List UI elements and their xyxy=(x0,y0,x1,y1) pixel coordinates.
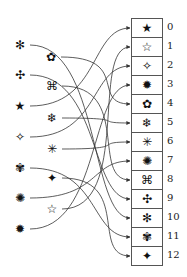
mapping-arrow xyxy=(62,47,130,209)
outline-four-point-star-icon: ✧ xyxy=(142,59,152,73)
mapping-arrow xyxy=(62,142,130,149)
slot-index-label: 11 xyxy=(167,230,180,241)
slot-index-label: 5 xyxy=(167,116,173,127)
sparkle-icon: ✳ xyxy=(44,141,60,157)
slot-7: ✺ xyxy=(131,151,163,171)
filled-burst-icon: ✹ xyxy=(142,78,152,92)
filled-burst-icon: ✹ xyxy=(12,221,28,237)
slot-index-label: 1 xyxy=(167,40,173,51)
sunburst-icon: ✺ xyxy=(12,190,28,206)
slot-index-label: 8 xyxy=(167,173,173,184)
sunburst-icon: ✺ xyxy=(142,154,152,168)
winged-flower-icon: ✾ xyxy=(142,230,152,244)
mapping-arrow xyxy=(30,66,130,137)
slot-index-label: 7 xyxy=(167,154,173,165)
mapping-diagram: ★0☆1✧2✹3✿4❄5✳6✺7⌘8✣9✻10✾11✦12 ✻✿✣⌘★❄✧✳✾✦… xyxy=(0,0,187,277)
mapping-arrow xyxy=(62,86,130,180)
slot-4: ✿ xyxy=(131,94,163,114)
dotted-cross-icon: ✣ xyxy=(142,192,152,206)
slot-8: ⌘ xyxy=(131,170,163,190)
snowflake-icon: ❄ xyxy=(44,110,60,126)
outline-star-icon: ☆ xyxy=(44,201,60,217)
dotted-cross-icon: ✣ xyxy=(12,67,28,83)
filled-four-point-star-icon: ✦ xyxy=(142,249,152,263)
flower-icon: ✿ xyxy=(43,49,59,65)
slot-1: ☆ xyxy=(131,37,163,57)
slot-index-label: 12 xyxy=(167,249,180,260)
mapping-arrow xyxy=(62,118,130,123)
winged-flower-icon: ✾ xyxy=(12,160,28,176)
slot-index-label: 4 xyxy=(167,97,173,108)
outline-star-icon: ☆ xyxy=(142,40,153,54)
clover-outline-icon: ⌘ xyxy=(44,78,60,94)
slot-3: ✹ xyxy=(131,75,163,95)
filled-star-icon: ★ xyxy=(12,98,28,114)
filled-star-icon: ★ xyxy=(142,21,153,35)
slot-index-label: 2 xyxy=(167,59,173,70)
sparkle-icon: ✳ xyxy=(142,135,152,149)
asterisk-flake-icon: ✻ xyxy=(142,211,152,225)
slot-index-label: 3 xyxy=(167,78,173,89)
slot-5: ❄ xyxy=(131,113,163,133)
snowflake-icon: ❄ xyxy=(142,116,152,130)
slot-10: ✻ xyxy=(131,208,163,228)
asterisk-flake-icon: ✻ xyxy=(12,37,28,53)
mapping-arrow xyxy=(62,178,130,256)
slot-index-label: 0 xyxy=(167,21,173,32)
slot-12: ✦ xyxy=(131,246,163,266)
slot-11: ✾ xyxy=(131,227,163,247)
slot-0: ★ xyxy=(131,18,163,38)
slot-index-label: 9 xyxy=(167,192,173,203)
slot-6: ✳ xyxy=(131,132,163,152)
slot-9: ✣ xyxy=(131,189,163,209)
flower-icon: ✿ xyxy=(142,97,152,111)
slot-index-label: 6 xyxy=(167,135,173,146)
clover-outline-icon: ⌘ xyxy=(141,173,153,187)
filled-four-point-star-icon: ✦ xyxy=(44,170,60,186)
slot-2: ✧ xyxy=(131,56,163,76)
slot-index-label: 10 xyxy=(167,211,180,222)
outline-four-point-star-icon: ✧ xyxy=(12,129,28,145)
